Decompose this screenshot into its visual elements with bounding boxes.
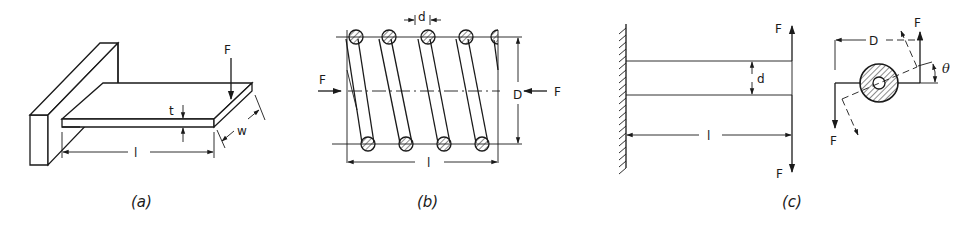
width-arrow-b bbox=[248, 110, 259, 119]
hatch-mark bbox=[619, 140, 626, 146]
wire-section-bottom bbox=[475, 137, 489, 151]
end-force-label-bottom: F bbox=[830, 134, 837, 148]
width-arrow-a bbox=[222, 131, 234, 141]
angle-label: θ bbox=[942, 61, 950, 76]
panel-a: F t l w (a) bbox=[30, 43, 265, 211]
wire-diameter-label: d bbox=[418, 10, 426, 24]
arm-label: D bbox=[869, 34, 878, 48]
hatch-mark bbox=[619, 154, 626, 160]
force-label: F bbox=[224, 43, 231, 57]
wire-section-top bbox=[459, 30, 473, 44]
hatch-mark bbox=[619, 112, 626, 118]
wire-section-bottom bbox=[399, 137, 413, 151]
hatch-mark bbox=[619, 49, 626, 55]
figure-canvas: F t l w (a) d D bbox=[0, 0, 967, 225]
rotated-arrow-down bbox=[855, 128, 858, 135]
wire-section-top bbox=[349, 30, 363, 44]
hatch-mark bbox=[619, 42, 626, 48]
hatch-mark bbox=[619, 28, 626, 34]
hatch-mark bbox=[619, 84, 626, 90]
length-label: l bbox=[707, 129, 710, 143]
wall-hatching bbox=[619, 28, 626, 174]
wire-section-bottom bbox=[437, 137, 451, 151]
angle-arrow-b bbox=[933, 64, 935, 72]
rotated-force-down bbox=[842, 99, 857, 133]
wire-section-bottom bbox=[361, 137, 375, 151]
hatch-mark bbox=[619, 63, 626, 69]
panel-c: F F d l (c) D F F bbox=[619, 16, 950, 211]
panel-b: d D F F l (b) bbox=[318, 10, 561, 211]
hatch-mark bbox=[619, 56, 626, 62]
rotated-arrow-up bbox=[901, 31, 904, 38]
force-label-left: F bbox=[319, 73, 326, 87]
coil-group bbox=[346, 30, 498, 151]
wire-section-top bbox=[421, 30, 435, 44]
hatch-mark bbox=[619, 35, 626, 41]
hatch-mark bbox=[619, 161, 626, 167]
caption-a: (a) bbox=[131, 193, 152, 211]
force-label-right: F bbox=[554, 85, 561, 99]
caption-c: (c) bbox=[782, 193, 802, 211]
hatch-mark bbox=[619, 91, 626, 97]
force-label-top: F bbox=[775, 22, 782, 36]
rotated-force-up bbox=[902, 33, 917, 67]
hatch-mark bbox=[619, 147, 626, 153]
width-label: w bbox=[237, 124, 247, 138]
thickness-label: t bbox=[169, 104, 174, 118]
length-label: l bbox=[427, 156, 430, 170]
length-label: l bbox=[134, 146, 137, 160]
end-force-label-top: F bbox=[914, 16, 921, 30]
diameter-label: d bbox=[757, 72, 765, 86]
hatch-mark bbox=[619, 105, 626, 111]
caption-b: (b) bbox=[417, 193, 438, 211]
hatch-mark bbox=[619, 126, 626, 132]
bar-center bbox=[873, 77, 885, 89]
end-view: D F F θ bbox=[830, 16, 950, 148]
hatch-mark bbox=[619, 70, 626, 76]
hatch-mark bbox=[619, 168, 626, 174]
coil-diameter-label: D bbox=[513, 88, 522, 102]
hatch-mark bbox=[619, 119, 626, 125]
hatch-mark bbox=[619, 98, 626, 104]
hatch-mark bbox=[619, 77, 626, 83]
hatch-mark bbox=[619, 133, 626, 139]
wire-section-top bbox=[382, 30, 396, 44]
wire-section-top-end bbox=[491, 30, 498, 44]
force-label-bottom: F bbox=[776, 167, 783, 181]
width-ext-back bbox=[255, 95, 265, 120]
